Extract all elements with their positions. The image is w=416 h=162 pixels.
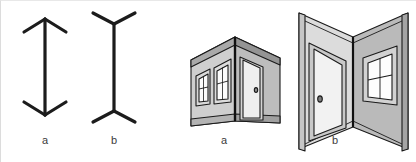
carpentered-corners-panel: a b xyxy=(183,1,416,162)
fin-a-top-left xyxy=(24,19,45,32)
muller-lyer-panel: a b xyxy=(1,1,183,162)
corner-label-b: b xyxy=(325,134,345,146)
corner-b-door xyxy=(309,43,346,141)
figure-root: a b xyxy=(0,0,416,162)
muller-lyer-label-b: b xyxy=(104,134,124,146)
corner-b-door-panel xyxy=(314,49,342,136)
corner-figure-b xyxy=(299,13,408,151)
fin-a-bottom-right xyxy=(45,102,66,115)
corner-b-doorknob-icon xyxy=(318,96,323,102)
fin-b-bottom-left xyxy=(93,111,114,122)
corner-label-a: a xyxy=(214,134,234,146)
muller-lyer-figure-a xyxy=(24,19,66,115)
fin-a-bottom-left xyxy=(24,102,45,115)
muller-lyer-drawing xyxy=(1,1,183,162)
corner-figure-a xyxy=(191,37,280,126)
fin-b-top-right xyxy=(114,13,135,24)
corner-a-doorknob-icon xyxy=(254,88,257,93)
fin-b-bottom-right xyxy=(114,111,135,122)
corner-b-left-wall-edge xyxy=(299,13,305,151)
corner-b-right-wall-edge xyxy=(402,13,408,151)
corner-a-window-1 xyxy=(196,69,210,106)
muller-lyer-figure-b xyxy=(93,13,135,122)
corner-a-door xyxy=(240,57,263,120)
muller-lyer-label-a: a xyxy=(35,134,55,146)
fin-a-top-right xyxy=(45,19,66,32)
fin-b-top-left xyxy=(93,13,114,24)
